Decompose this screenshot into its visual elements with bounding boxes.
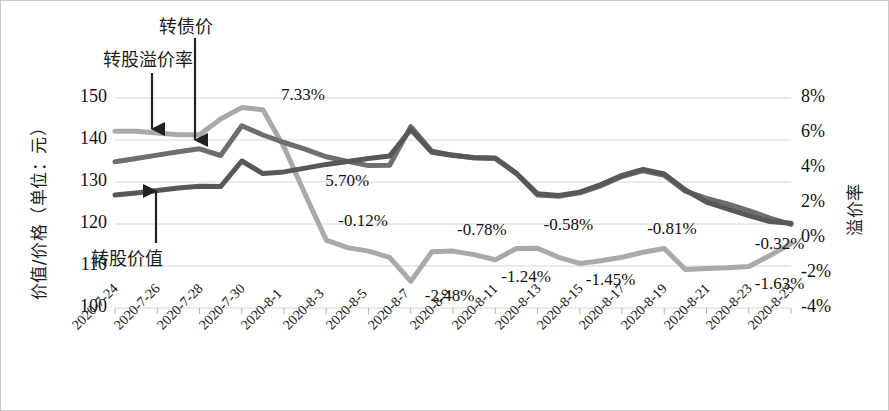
data-label: 7.33% <box>281 85 325 105</box>
y-axis-right-tick-label: 8% <box>801 86 861 107</box>
y-axis-right-tick-label: -2% <box>801 261 861 282</box>
data-label: -2.48% <box>425 286 475 306</box>
y-axis-right-tick-label: 4% <box>801 156 861 177</box>
data-label: -0.32% <box>755 234 805 254</box>
y-axis-right-tick-label: 2% <box>801 191 861 212</box>
data-label: -0.12% <box>338 211 388 231</box>
data-label: -1.24% <box>501 267 551 287</box>
annotation-conversion-value-label: 转股价值 <box>91 244 163 270</box>
y-axis-left-tick-label: 130 <box>53 170 107 191</box>
gridlines <box>115 98 791 308</box>
data-label: -1.63% <box>755 274 805 294</box>
y-axis-left-tick-label: 140 <box>53 128 107 149</box>
series-lines <box>115 108 791 282</box>
y-axis-right-tick-label: 6% <box>801 121 861 142</box>
y-axis-left-tick-label: 120 <box>53 212 107 233</box>
y-axis-left-tick-label: 150 <box>53 86 107 107</box>
y-axis-right-tick-label: 0% <box>801 226 861 247</box>
data-label: -0.58% <box>544 215 594 235</box>
data-label: 5.70% <box>325 171 369 191</box>
data-label: -0.81% <box>647 219 697 239</box>
y-axis-right-tick-label: -4% <box>801 296 861 317</box>
data-label: -0.78% <box>457 220 507 240</box>
series-line-2 <box>115 130 791 224</box>
series-line-1 <box>115 126 791 225</box>
data-label: -1.45% <box>586 270 636 290</box>
chart-figure: 价值/价格（单位：元） 溢价率 150140130120110100 8%6%4… <box>0 0 889 411</box>
annotation-bond-price-label: 转债价 <box>159 12 213 38</box>
y-axis-left-title: 价值/价格（单位：元） <box>25 100 50 320</box>
annotation-premium-rate-label: 转股溢价率 <box>103 45 193 71</box>
